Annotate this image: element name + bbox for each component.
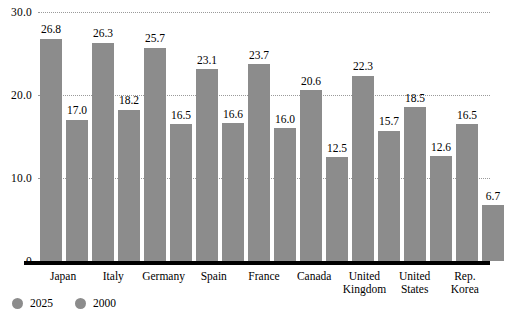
bar-item[interactable]: 18.2: [118, 12, 140, 261]
bar[interactable]: [378, 131, 400, 261]
bar-group: 26.817.0: [38, 12, 90, 261]
x-axis-line: [24, 261, 490, 265]
y-axis-tick-label: 30.0: [11, 6, 38, 18]
bar[interactable]: [170, 124, 192, 261]
x-axis-category-label: Canada: [289, 270, 339, 296]
bar-value-label: 25.7: [145, 33, 165, 45]
bar-group: 16.56.7: [454, 12, 506, 261]
x-axis-category-label: Spain: [189, 270, 239, 296]
bar-item[interactable]: 26.3: [92, 12, 114, 261]
x-axis-category-label: Japan: [38, 270, 88, 296]
bar[interactable]: [118, 110, 140, 261]
bar-item[interactable]: 16.0: [274, 12, 296, 261]
bar-item[interactable]: 17.0: [66, 12, 88, 261]
bar-value-label: 22.3: [353, 61, 373, 73]
bar[interactable]: [274, 128, 296, 261]
bar[interactable]: [326, 157, 348, 261]
x-axis-category-label: France: [239, 270, 289, 296]
bar[interactable]: [222, 123, 244, 261]
bar[interactable]: [352, 76, 374, 261]
x-axis-category-label: United States: [390, 270, 440, 296]
bar-item[interactable]: 16.6: [222, 12, 244, 261]
bar-value-label: 23.1: [197, 55, 217, 67]
x-axis-category-label: Rep. Korea: [440, 270, 490, 296]
bar-item[interactable]: 12.6: [430, 12, 452, 261]
bar-value-label: 18.5: [405, 93, 425, 105]
bar-group: 22.315.7: [350, 12, 402, 261]
bar-item[interactable]: 22.3: [352, 12, 374, 261]
bar[interactable]: [482, 205, 504, 261]
bar-value-label: 26.3: [93, 28, 113, 40]
bar-item[interactable]: 6.7: [482, 12, 504, 261]
bar-group: 20.612.5: [298, 12, 350, 261]
x-axis-category-labels: JapanItalyGermanySpainFranceCanadaUnited…: [38, 270, 490, 296]
x-axis-category-label: United Kingdom: [339, 270, 389, 296]
bar-group: 23.716.0: [246, 12, 298, 261]
y-axis-tick-label: 10.0: [11, 172, 38, 184]
y-axis-tick-label: 20.0: [11, 89, 38, 101]
bar-chart: 010.020.030.0 26.817.026.318.225.716.523…: [0, 0, 523, 321]
bar[interactable]: [144, 48, 166, 261]
bar[interactable]: [300, 90, 322, 261]
bar-value-label: 16.5: [171, 110, 191, 122]
legend-item[interactable]: 2025: [12, 297, 53, 309]
legend-label: 2025: [30, 297, 53, 309]
bar-value-label: 26.8: [41, 24, 61, 36]
bar-item[interactable]: 23.7: [248, 12, 270, 261]
legend-swatch-2000-icon: [75, 298, 86, 309]
bar-value-label: 12.6: [431, 142, 451, 154]
bar-item[interactable]: 16.5: [170, 12, 192, 261]
bar-value-label: 20.6: [301, 76, 321, 88]
bar-item[interactable]: 26.8: [40, 12, 62, 261]
bar-value-label: 23.7: [249, 50, 269, 62]
bar-group: 25.716.5: [142, 12, 194, 261]
bar-item[interactable]: 20.6: [300, 12, 322, 261]
bar-item[interactable]: 25.7: [144, 12, 166, 261]
bar[interactable]: [40, 39, 62, 261]
bar[interactable]: [92, 43, 114, 261]
legend: 20252000: [12, 297, 116, 309]
bar-value-label: 12.5: [327, 143, 347, 155]
bar[interactable]: [456, 124, 478, 261]
bar-item[interactable]: 15.7: [378, 12, 400, 261]
bar-groups: 26.817.026.318.225.716.523.116.623.716.0…: [38, 12, 490, 261]
bar-group: 23.116.6: [194, 12, 246, 261]
bar[interactable]: [404, 107, 426, 261]
bar-item[interactable]: 16.5: [456, 12, 478, 261]
bar-value-label: 16.6: [223, 109, 243, 121]
bar-value-label: 6.7: [486, 191, 500, 203]
bar[interactable]: [430, 156, 452, 261]
bar-item[interactable]: 12.5: [326, 12, 348, 261]
x-axis-category-label: Germany: [138, 270, 188, 296]
bar-item[interactable]: 23.1: [196, 12, 218, 261]
bar[interactable]: [66, 120, 88, 261]
legend-label: 2000: [93, 297, 116, 309]
bar-item[interactable]: 18.5: [404, 12, 426, 261]
bar[interactable]: [248, 64, 270, 261]
bar-value-label: 16.5: [457, 110, 477, 122]
bar[interactable]: [196, 69, 218, 261]
legend-item[interactable]: 2000: [75, 297, 116, 309]
bar-value-label: 15.7: [379, 116, 399, 128]
plot-area: 010.020.030.0 26.817.026.318.225.716.523…: [38, 12, 490, 261]
bar-group: 18.512.6: [402, 12, 454, 261]
bar-value-label: 17.0: [67, 105, 87, 117]
x-axis-category-label: Italy: [88, 270, 138, 296]
bar-value-label: 18.2: [119, 95, 139, 107]
bar-value-label: 16.0: [275, 114, 295, 126]
legend-swatch-2025-icon: [12, 298, 23, 309]
bar-group: 26.318.2: [90, 12, 142, 261]
